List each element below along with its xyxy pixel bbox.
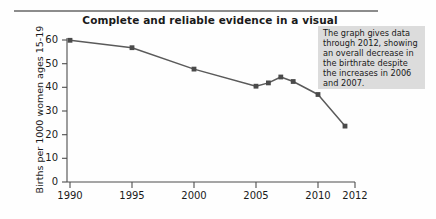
y-tick-label-30: 30 xyxy=(36,105,58,116)
data-point-2006 xyxy=(266,81,271,86)
data-point-1990 xyxy=(68,38,73,43)
data-point-markers xyxy=(68,38,348,129)
figure-page: Complete and reliable evidence in a visu… xyxy=(0,0,436,219)
data-point-1995 xyxy=(130,45,135,50)
annotation-callout: The graph gives data through 2012, showi… xyxy=(318,26,425,89)
y-tick-marks xyxy=(62,40,67,182)
x-tick-marks xyxy=(70,182,355,188)
x-tick-label-1990: 1990 xyxy=(50,190,90,201)
data-point-2005 xyxy=(254,84,259,89)
x-tick-label-1995: 1995 xyxy=(112,190,152,201)
data-point-2010 xyxy=(316,92,321,97)
x-tick-label-2000: 2000 xyxy=(174,190,214,201)
y-tick-label-40: 40 xyxy=(36,81,58,92)
data-point-2000 xyxy=(192,67,197,72)
annotation-text: The graph gives data through 2012, showi… xyxy=(323,29,421,88)
y-tick-label-50: 50 xyxy=(36,58,58,69)
y-tick-label-20: 20 xyxy=(36,129,58,140)
data-point-2008 xyxy=(291,79,296,84)
y-tick-label-60: 60 xyxy=(36,34,58,45)
x-tick-label-2005: 2005 xyxy=(236,190,276,201)
data-point-2007 xyxy=(278,75,283,80)
x-tick-label-2010: 2010 xyxy=(298,190,338,201)
data-point-2012 xyxy=(343,124,348,129)
x-tick-label-2012: 2012 xyxy=(335,190,375,201)
data-series-line xyxy=(70,40,345,126)
y-tick-label-0: 0 xyxy=(36,176,58,187)
y-tick-label-10: 10 xyxy=(36,152,58,163)
